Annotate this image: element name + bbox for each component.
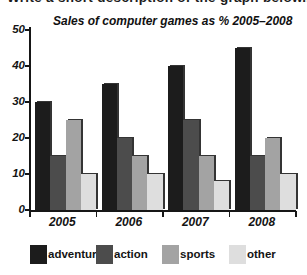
- x-axis-label-2006: 2006: [96, 215, 163, 229]
- exercise-heading-text: Write a short description of the graph b…: [7, 0, 307, 5]
- bar-action-2005: [50, 156, 65, 210]
- y-axis-line: [29, 27, 31, 211]
- y-tick-40: [25, 65, 30, 67]
- y-tick-50: [25, 29, 30, 31]
- bar-other-2008: [280, 174, 295, 210]
- bar-adventure-2008: [235, 48, 250, 210]
- legend-swatch-action: [96, 245, 113, 264]
- y-tick-30: [25, 101, 30, 103]
- bar-sports-2005: [66, 120, 81, 210]
- y-tick-label-20: 20: [3, 131, 25, 143]
- legend-label-adventure: adventure: [48, 248, 103, 260]
- bar-sports-2007: [199, 156, 214, 210]
- legend-swatch-adventure: [30, 245, 47, 264]
- legend-swatch-sports: [162, 245, 179, 264]
- y-tick-label-40: 40: [3, 59, 25, 71]
- legend-item-adventure: adventure: [30, 244, 103, 264]
- bar-action-2007: [183, 120, 198, 210]
- y-tick-label-50: 50: [3, 23, 25, 35]
- bar-sports-2006: [132, 156, 147, 210]
- bar-adventure-2005: [35, 102, 50, 210]
- bar-sports-2008: [265, 138, 280, 210]
- y-tick-10: [25, 173, 30, 175]
- x-axis-label-2005: 2005: [29, 215, 96, 229]
- legend-label-other: other: [247, 248, 276, 260]
- legend-item-action: action: [96, 244, 148, 264]
- exercise-heading-clipped: Write a short description of the graph b…: [0, 0, 307, 6]
- worksheet-page: Write a short description of the graph b…: [0, 0, 307, 275]
- legend-item-sports: sports: [162, 244, 215, 264]
- y-tick-label-0: 0: [3, 203, 25, 215]
- legend-label-action: action: [114, 248, 148, 260]
- bar-adventure-2006: [102, 84, 117, 210]
- legend-label-sports: sports: [180, 248, 215, 260]
- bar-action-2008: [250, 156, 265, 210]
- x-axis-label-2007: 2007: [162, 215, 229, 229]
- legend-swatch-other: [229, 245, 246, 264]
- legend-item-other: other: [229, 244, 276, 264]
- y-tick-20: [25, 137, 30, 139]
- bar-adventure-2007: [168, 66, 183, 210]
- bar-action-2006: [117, 138, 132, 210]
- x-tick-4: [295, 211, 297, 217]
- bar-other-2007: [214, 181, 229, 210]
- chart-title: Sales of computer games as % 2005–2008: [53, 14, 292, 28]
- bar-other-2005: [81, 174, 96, 210]
- bar-other-2006: [147, 174, 162, 210]
- x-axis-label-2008: 2008: [229, 215, 296, 229]
- y-tick-label-10: 10: [3, 167, 25, 179]
- y-tick-label-30: 30: [3, 95, 25, 107]
